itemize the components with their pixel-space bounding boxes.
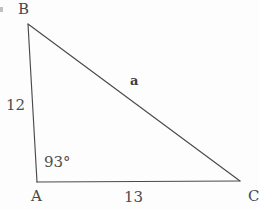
triangle-figure: B A C 12 13 a 93° [0,0,259,209]
triangle-side-ab [28,24,37,182]
vertex-label-b: B [18,2,29,17]
triangle-side-ac [37,181,240,182]
side-length-label-ab: 12 [6,98,25,113]
vertex-label-a: A [31,189,42,204]
triangle-drawing [0,0,259,209]
side-length-label-ac: 13 [124,190,143,205]
vertex-label-c: C [248,189,259,204]
margin-artifact-mark [0,7,3,12]
angle-measure-label-a: 93° [44,155,71,170]
side-length-label-bc: a [130,74,138,87]
